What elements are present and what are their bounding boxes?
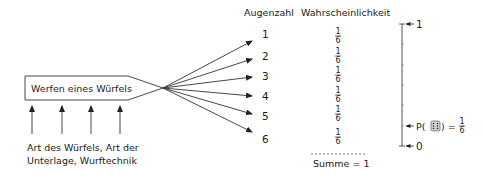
- svg-text:) =: ) =: [441, 121, 456, 132]
- header-wahrscheinlichkeit: Wahrscheinlichkeit: [301, 7, 390, 18]
- fraction: 1 6: [335, 128, 341, 146]
- svg-text:6: 6: [335, 137, 340, 146]
- svg-text:6: 6: [335, 36, 340, 45]
- influences-line-2: Unterlage, Wurftechnik: [27, 155, 137, 166]
- svg-text:1: 1: [335, 47, 340, 56]
- svg-text:1: 1: [335, 27, 340, 36]
- outcome-value: 1: [262, 28, 269, 40]
- outcome-value: 6: [262, 133, 269, 145]
- header-augenzahl: Augenzahl: [244, 7, 294, 18]
- fraction: 1 6: [335, 105, 341, 123]
- outcome-value: 2: [262, 50, 269, 62]
- marker-fraction: 1 6: [459, 117, 465, 135]
- svg-text:1: 1: [335, 105, 340, 114]
- outcome-arrows: [163, 41, 252, 132]
- svg-text:6: 6: [335, 95, 340, 104]
- svg-text:6: 6: [335, 114, 340, 123]
- outcome-arrow-icon: [163, 41, 252, 88]
- fraction: 1 6: [335, 66, 341, 84]
- scale-top-label: 1: [416, 18, 423, 30]
- svg-text:1: 1: [335, 86, 340, 95]
- svg-text:6: 6: [459, 126, 464, 135]
- svg-text:1: 1: [459, 117, 464, 126]
- svg-text:6: 6: [335, 75, 340, 84]
- outcome-value: 3: [262, 70, 269, 82]
- outcome-values: 1 2 3 4 5 6: [262, 28, 269, 145]
- outcome-arrow-icon: [163, 59, 252, 88]
- fraction: 1 6: [335, 47, 341, 65]
- dice-probability-diagram: Werfen eines Würfels Art des Würfels, Ar…: [0, 0, 483, 177]
- process-box-label: Werfen eines Würfels: [31, 83, 132, 94]
- outcome-value: 5: [262, 110, 269, 122]
- outcome-arrow-icon: [163, 77, 252, 88]
- probability-fractions: 1 6 1 6 1 6 1 6 1 6 1 6: [335, 27, 341, 146]
- sum-label: Summe = 1: [313, 158, 369, 169]
- svg-text:1: 1: [335, 128, 340, 137]
- influences-line-1: Art des Würfels, Art der: [27, 142, 139, 153]
- svg-text:6: 6: [335, 56, 340, 65]
- process-box: Werfen eines Würfels: [25, 76, 163, 100]
- svg-text:1: 1: [335, 66, 340, 75]
- fraction: 1 6: [335, 86, 341, 104]
- outcome-value: 4: [262, 90, 269, 102]
- scale-marker-label: P( ) = 1 6: [416, 117, 465, 135]
- influence-arrows: [32, 106, 120, 134]
- fraction: 1 6: [335, 27, 341, 45]
- die-six-icon: [431, 121, 440, 131]
- svg-text:P(: P(: [416, 121, 425, 132]
- probability-scale: 1 0 P( ) = 1 6: [399, 18, 465, 152]
- scale-bottom-label: 0: [416, 140, 423, 152]
